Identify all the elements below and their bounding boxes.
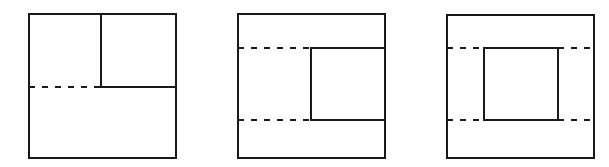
outer-square [447, 15, 594, 158]
diagram-canvas [0, 0, 609, 167]
panel-1 [29, 14, 176, 158]
panel-3 [447, 15, 594, 158]
panel-2 [238, 14, 385, 158]
three-square-diagram [0, 0, 609, 167]
